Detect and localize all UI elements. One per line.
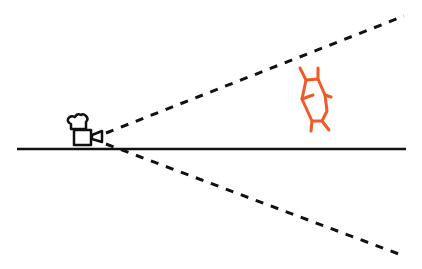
diagram-canvas: ground line camera hexagonal molecule bbox=[0, 0, 422, 269]
fov-lower-line bbox=[106, 144, 404, 256]
fov-upper-line bbox=[106, 16, 404, 133]
movie-camera-icon bbox=[68, 114, 102, 145]
diagram-svg bbox=[0, 0, 422, 269]
hexagon-molecule-icon bbox=[300, 68, 331, 131]
